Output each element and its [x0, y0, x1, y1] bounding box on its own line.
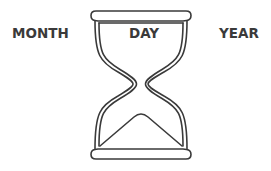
month-label: MONTH	[12, 27, 69, 41]
sand-mound	[100, 114, 182, 146]
bottom-cap	[91, 149, 191, 159]
year-label: YEAR	[219, 27, 259, 41]
top-cap	[91, 11, 191, 21]
day-label: DAY	[129, 27, 159, 41]
